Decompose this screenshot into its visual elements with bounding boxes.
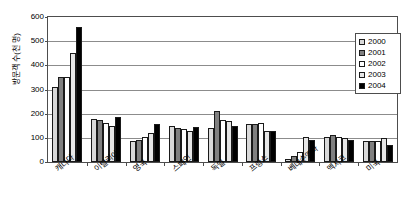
bar-group	[246, 17, 276, 162]
x-tick-mark	[87, 162, 88, 166]
chart-legend: 20002001200220032004	[355, 33, 401, 94]
bar-group	[285, 17, 315, 162]
legend-label: 2004	[368, 82, 386, 90]
x-tick-mark	[319, 162, 320, 166]
legend-label: 2003	[368, 71, 386, 79]
legend-swatch-icon	[359, 39, 365, 45]
y-tick-label: 300	[18, 86, 44, 94]
bar-group	[91, 17, 121, 162]
x-tick-mark	[203, 162, 204, 166]
legend-item[interactable]: 2003	[359, 69, 398, 80]
plot-area: 0100200300400500600	[47, 16, 398, 163]
legend-label: 2000	[368, 38, 386, 46]
bar[interactable]	[387, 145, 393, 162]
legend-item[interactable]: 2004	[359, 80, 398, 91]
bar[interactable]	[76, 27, 82, 162]
y-tick-mark	[45, 162, 48, 163]
legend-item[interactable]: 2002	[359, 58, 398, 69]
legend-swatch-icon	[359, 72, 365, 78]
bar[interactable]	[154, 124, 160, 162]
y-tick-label: 200	[18, 110, 44, 118]
y-tick-label: 600	[18, 13, 44, 21]
x-tick-mark	[358, 162, 359, 166]
legend-label: 2002	[368, 60, 386, 68]
bar-series-layer	[48, 17, 397, 162]
legend-swatch-icon	[359, 61, 365, 67]
y-tick-label: 0	[18, 158, 44, 166]
bar[interactable]	[270, 131, 276, 162]
legend-label: 2001	[368, 49, 386, 57]
bar-group	[324, 17, 354, 162]
bar[interactable]	[232, 126, 238, 162]
legend-item[interactable]: 2001	[359, 47, 398, 58]
x-tick-mark	[242, 162, 243, 166]
bar[interactable]	[348, 140, 354, 162]
y-tick-label: 500	[18, 37, 44, 45]
x-tick-mark	[164, 162, 165, 166]
bar-group	[52, 17, 82, 162]
legend-swatch-icon	[359, 83, 365, 89]
bar[interactable]	[193, 127, 199, 162]
legend-swatch-icon	[359, 50, 365, 56]
y-tick-label: 100	[18, 134, 44, 142]
bar-group	[208, 17, 238, 162]
x-tick-mark	[281, 162, 282, 166]
x-tick-mark	[126, 162, 127, 166]
bar-group	[130, 17, 160, 162]
bar-group	[169, 17, 199, 162]
y-tick-label: 400	[18, 61, 44, 69]
legend-item[interactable]: 2000	[359, 36, 398, 47]
bar-chart: 방문객 수(천 명) 0100200300400500600 캐나다이탈리아영국…	[0, 0, 414, 217]
